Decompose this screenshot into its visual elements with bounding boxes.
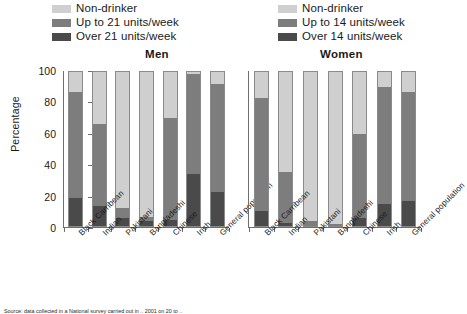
figure-footnote: Source: data collected in a National sur… xyxy=(4,308,182,314)
bars-women xyxy=(249,71,421,227)
bar-slot xyxy=(205,71,229,227)
legend-men: Non-drinker Up to 21 units/week Over 21 … xyxy=(52,2,179,44)
stacked-bar[interactable] xyxy=(401,71,416,227)
bar-segment xyxy=(116,72,129,208)
legend-swatch-up-to-icon xyxy=(278,19,297,27)
bar-slot xyxy=(135,71,159,227)
bar-segment xyxy=(187,74,200,174)
bar-segment xyxy=(255,72,268,98)
stacked-bar[interactable] xyxy=(186,71,201,227)
bar-segment xyxy=(329,72,342,224)
legend-swatch-non-drinker-icon xyxy=(278,5,297,13)
stacked-bar[interactable] xyxy=(68,71,83,227)
bar-slot xyxy=(64,71,88,227)
y-axis-label: Percentage xyxy=(9,79,21,169)
y-tick-label: 60 xyxy=(30,128,56,140)
bar-segment xyxy=(93,124,106,206)
legend-item-over-women: Over 14 units/week xyxy=(278,30,405,44)
y-tick-label: 100 xyxy=(30,65,56,77)
y-axis-ticks: 020406080100 xyxy=(30,0,56,314)
x-axis-labels-women: Black CarribeanIndianPakistaniBangladesh… xyxy=(249,231,421,311)
panel-title-women: Women xyxy=(320,48,363,60)
legend-label-non-drinker: Non-drinker xyxy=(76,3,137,15)
legend-item-up-to-women: Up to 14 units/week xyxy=(278,16,405,30)
stacked-bar[interactable] xyxy=(210,71,225,227)
stacked-bar[interactable] xyxy=(139,71,154,227)
bar-slot xyxy=(249,71,274,227)
legend-item-over-men: Over 21 units/week xyxy=(52,30,179,44)
legend-item-non-drinker-men: Non-drinker xyxy=(52,2,179,16)
bar-segment xyxy=(378,72,391,87)
legend-item-up-to-men: Up to 21 units/week xyxy=(52,16,179,30)
y-tick-label: 80 xyxy=(30,96,56,108)
legend-women: Non-drinker Up to 14 units/week Over 14 … xyxy=(278,2,405,44)
bar-segment xyxy=(402,201,415,226)
plot-area-women: Black CarribeanIndianPakistaniBangladesh… xyxy=(248,71,421,228)
stacked-bar[interactable] xyxy=(303,71,318,227)
legend-label-over: Over 14 units/week xyxy=(302,31,402,43)
y-tick-label: 40 xyxy=(30,159,56,171)
y-tick-label: 0 xyxy=(30,222,56,234)
stacked-bar[interactable] xyxy=(254,71,269,227)
bar-segment xyxy=(211,192,224,226)
bar-slot xyxy=(372,71,397,227)
legend-item-non-drinker-women: Non-drinker xyxy=(278,2,405,16)
y-tick-label: 20 xyxy=(30,191,56,203)
bar-segment xyxy=(353,72,366,134)
panel-title-men: Men xyxy=(145,48,169,60)
legend-label-over: Over 21 units/week xyxy=(76,31,176,43)
bar-segment xyxy=(402,92,415,201)
bar-segment xyxy=(211,72,224,84)
bar-segment xyxy=(378,87,391,204)
bar-segment xyxy=(69,92,82,198)
bar-segment xyxy=(255,98,268,210)
bar-segment xyxy=(402,72,415,92)
legend-label-non-drinker: Non-drinker xyxy=(302,3,363,15)
legend-swatch-over-icon xyxy=(278,33,297,41)
bar-segment xyxy=(279,72,292,172)
bars-men xyxy=(64,71,229,227)
bar-segment xyxy=(164,72,177,118)
bar-segment xyxy=(69,198,82,226)
legend-label-up-to: Up to 21 units/week xyxy=(76,17,179,29)
bar-slot xyxy=(323,71,348,227)
stacked-bar[interactable] xyxy=(115,71,130,227)
bar-slot xyxy=(396,71,421,227)
legend-label-up-to: Up to 14 units/week xyxy=(302,17,405,29)
x-axis-labels-men: Black CarribeanIndianPakistaniBangladesh… xyxy=(64,231,229,311)
bar-segment xyxy=(93,72,106,124)
bar-segment xyxy=(69,72,82,92)
bar-segment xyxy=(255,211,268,226)
bar-segment xyxy=(211,84,224,192)
stacked-bar[interactable] xyxy=(328,71,343,227)
plot-area-men: Black CarribeanIndianPakistaniBangladesh… xyxy=(63,71,229,228)
stacked-bar[interactable] xyxy=(377,71,392,227)
bar-segment xyxy=(140,72,153,217)
